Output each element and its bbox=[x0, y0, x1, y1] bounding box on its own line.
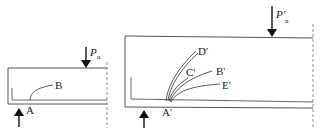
label-d-prime: D' bbox=[198, 45, 208, 57]
label-a: A bbox=[26, 104, 34, 116]
large-beam: P′ u A' B' C' D' E' bbox=[125, 6, 313, 128]
label-b-prime: B' bbox=[216, 65, 225, 77]
label-e-prime: E' bbox=[222, 79, 231, 91]
small-beam-load-subscript: u bbox=[97, 53, 101, 61]
label-c-prime: C' bbox=[186, 66, 195, 78]
small-beam-support-arrow bbox=[14, 108, 24, 127]
large-beam-load-subscript: u bbox=[285, 17, 289, 25]
crack-a-b bbox=[30, 85, 53, 100]
small-beam-load-label: P bbox=[89, 46, 97, 58]
beam-crack-diagram: P u A B P′ u bbox=[0, 0, 321, 132]
large-beam-support-arrow bbox=[139, 110, 149, 128]
label-b: B bbox=[55, 79, 62, 91]
small-beam: P u A B bbox=[8, 46, 107, 128]
label-a-prime: A' bbox=[162, 106, 172, 118]
crack-a-e bbox=[171, 84, 220, 102]
